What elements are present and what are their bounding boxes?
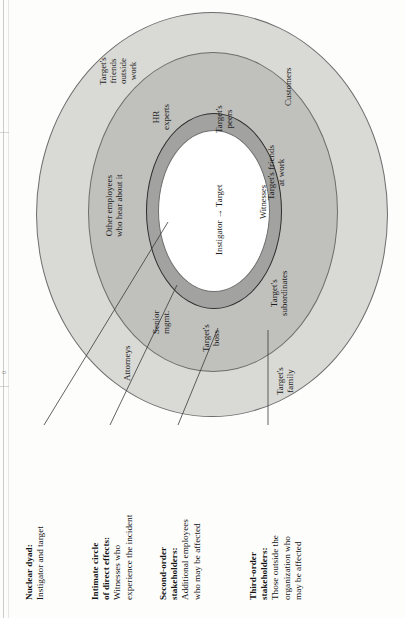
legend-item-third-order-stakeholders: Third-orderstakeholders: Those outside t…	[248, 535, 304, 600]
legend-description: Additional employeeswho may be affected	[180, 519, 202, 600]
outer-ring-label-targets-family: Target'sfamily	[275, 367, 295, 395]
page-tick-top	[0, 132, 9, 133]
legend-description: Witnesses whoexperience the incident	[112, 515, 134, 600]
figure-page: 0 Instigator → Target Witnesses Other em…	[0, 0, 405, 618]
mid-ring-label-targets-subordinates: Target'ssubordinates	[269, 271, 289, 317]
outer-ring-label-targets-friends-outside-work: Target'sfriendsoutsidework	[98, 57, 138, 85]
legend-description: Instigator and target	[35, 526, 46, 600]
page-edge-rule	[3, 0, 4, 618]
mid-ring-label-targets-boss: Target'sboss	[201, 324, 221, 352]
mid-ring-label-targets-peers: Target'speers	[214, 105, 234, 133]
outer-ring-label-customers: Customers	[283, 67, 293, 106]
page-folio: 0	[1, 371, 7, 374]
outer-ring-label-attorneys: Attorneys	[122, 346, 132, 382]
page-tick-bottom	[0, 386, 9, 387]
core-label: Instigator → Target	[214, 184, 224, 255]
legend-item-intimate-circle: Intimate circleof direct effects: Witnes…	[90, 515, 135, 600]
mid-ring-label-senior-mgmt: Seniormgmt.	[151, 311, 171, 335]
legend-item-second-order-stakeholders: Second-orderstakeholders: Additional emp…	[158, 519, 203, 600]
legend-title: Nuclear dyad:	[24, 526, 35, 600]
mid-ring-label-other-employees: Other employeeswho hear about it	[104, 174, 124, 237]
legend-title: Intimate circleof direct effects:	[90, 515, 112, 600]
legend-description: Those outside theorganization whomay be …	[270, 535, 304, 600]
legend-title: Third-orderstakeholders:	[248, 535, 270, 600]
page-edge-rule-secondary	[8, 0, 9, 618]
legend-item-nuclear-dyad: Nuclear dyad: Instigator and target	[24, 526, 46, 600]
mid-ring-label-targets-friends-at-work: Target's friendsat work	[266, 145, 286, 200]
mid-ring-label-hr-experts: HRexperts	[151, 104, 171, 130]
legend-title: Second-orderstakeholders:	[158, 519, 180, 600]
